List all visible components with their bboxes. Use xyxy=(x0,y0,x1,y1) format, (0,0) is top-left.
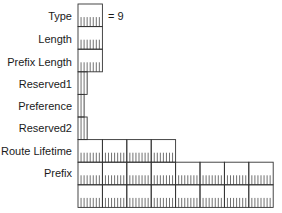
packet-diagram xyxy=(0,0,282,213)
